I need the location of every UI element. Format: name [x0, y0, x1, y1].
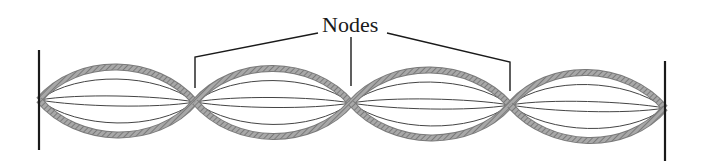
- envelope-line: [510, 105, 665, 112]
- standing-wave-diagram: Nodes: [0, 0, 704, 167]
- rope-extremes: [39, 67, 665, 140]
- envelope-line: [195, 102, 351, 108]
- envelope-line: [39, 96, 195, 102]
- node-leader-line: [195, 33, 318, 88]
- envelope-line: [39, 100, 195, 106]
- node-leader-lines: [195, 33, 510, 91]
- node-leader-line: [387, 33, 510, 91]
- envelope-line: [510, 101, 665, 108]
- envelope-line: [351, 99, 510, 105]
- envelope-line: [195, 97, 351, 103]
- envelope-line: [351, 103, 510, 109]
- nodes-label: Nodes: [322, 14, 378, 36]
